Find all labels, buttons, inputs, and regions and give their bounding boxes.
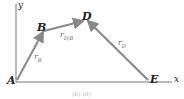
vector-rD-label: rD (118, 38, 126, 49)
vector-rDB-label: rD/B (60, 30, 73, 41)
figure-caption: (b) (d) (72, 90, 91, 97)
vector-rB-label: rB (34, 52, 42, 63)
point-D-label: D (82, 10, 92, 23)
x-axis-label: x (174, 74, 179, 84)
point-A-label: A (7, 74, 16, 87)
point-E-label: E (150, 73, 158, 86)
vector-rD (88, 21, 148, 80)
y-axis-label: y (18, 0, 23, 10)
point-B-label: B (37, 21, 46, 34)
